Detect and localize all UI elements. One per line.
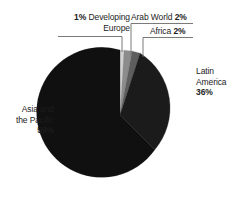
pie-label-africa-text: Africa bbox=[150, 26, 171, 36]
pie-label-latin-america-percent: 36% bbox=[196, 87, 213, 97]
pie-label-asia-pacific-percent: 59% bbox=[37, 125, 54, 135]
pie-label-africa-percent: 2% bbox=[173, 26, 185, 36]
pie-label-developing-europe: 1% Developing Europe bbox=[55, 12, 130, 33]
pie-label-arab-world-text: Arab World bbox=[131, 12, 172, 22]
pie-chart: 1% Developing Europe Arab World 2% Afric… bbox=[0, 0, 239, 204]
pie-label-latin-america-line2: America bbox=[196, 77, 226, 87]
pie-label-arab-world: Arab World 2% bbox=[131, 12, 187, 23]
pie-label-developing-europe-percent: 1% bbox=[74, 12, 86, 22]
pie-label-asia-pacific: Asia and the Pacific 59% bbox=[2, 104, 54, 136]
pie-label-developing-europe-line1: Developing bbox=[88, 12, 130, 22]
pie-label-latin-america-line1: Latin bbox=[196, 66, 214, 76]
pie-label-arab-world-percent: 2% bbox=[175, 12, 187, 22]
pie-label-developing-europe-line2: Europe bbox=[103, 23, 130, 33]
pie-label-latin-america: Latin America 36% bbox=[196, 66, 238, 98]
pie-label-africa: Africa 2% bbox=[150, 26, 186, 37]
pie-label-asia-pacific-line2: the Pacific bbox=[16, 115, 54, 125]
pie-label-asia-pacific-line1: Asia and bbox=[22, 104, 54, 114]
